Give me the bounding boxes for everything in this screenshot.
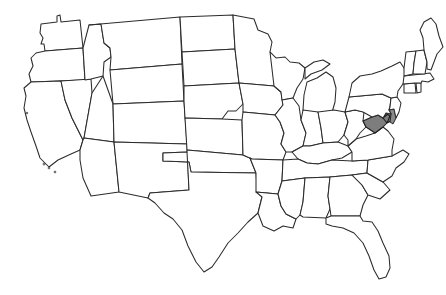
state-MD[interactable] (363, 113, 393, 133)
state-NY[interactable] (349, 62, 408, 98)
state-AL[interactable] (300, 177, 330, 218)
channel-islands-islet (43, 163, 45, 165)
state-OH[interactable] (318, 110, 348, 143)
california-coast-islet (26, 112, 28, 114)
state-RI[interactable] (416, 83, 421, 93)
state-ND[interactable] (180, 15, 235, 52)
state-AZ[interactable] (80, 138, 119, 196)
state-CT[interactable] (404, 83, 416, 93)
state-SD[interactable] (182, 49, 239, 86)
state-KS[interactable] (185, 118, 243, 155)
state-OR[interactable] (29, 48, 85, 82)
state-NE[interactable] (184, 83, 243, 119)
state-WA[interactable] (40, 15, 83, 51)
us-map-figure (0, 0, 446, 295)
channel-islands-islet-2 (48, 167, 50, 169)
state-WY[interactable] (110, 64, 184, 104)
state-MN[interactable] (233, 15, 278, 86)
state-CO[interactable] (113, 101, 187, 144)
state-NM[interactable] (114, 142, 189, 198)
us-states-map (0, 0, 446, 295)
state-FL[interactable] (326, 216, 390, 279)
channel-islands-islet-3 (54, 171, 56, 173)
